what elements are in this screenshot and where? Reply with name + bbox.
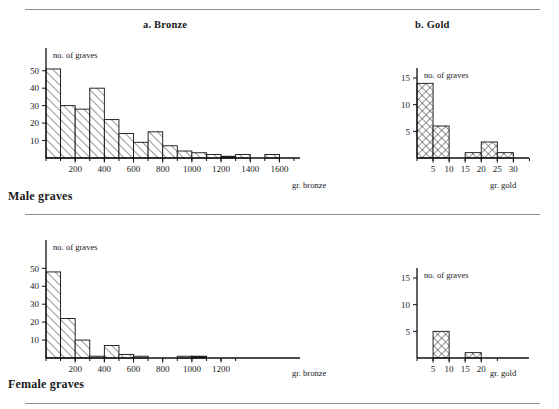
x-tick-label: 5 — [431, 164, 436, 174]
bar — [192, 153, 207, 158]
y-tick-label: 10 — [401, 300, 411, 310]
y-tick-label: 10 — [401, 100, 411, 110]
y-tick-label: 20 — [30, 118, 40, 128]
x-tick-label: 600 — [127, 364, 141, 374]
bar — [46, 272, 61, 358]
x-tick-label: 800 — [156, 364, 170, 374]
y-axis-name: no. of graves — [424, 270, 469, 280]
bar — [61, 106, 76, 158]
y-tick-label: 15 — [401, 73, 411, 83]
x-tick-label: 15 — [461, 164, 471, 174]
x-tick-label: 10 — [445, 164, 455, 174]
y-axis-name: no. of graves — [53, 242, 98, 252]
x-tick-label: 400 — [98, 364, 112, 374]
x-tick-label: 15 — [461, 364, 471, 374]
x-tick-label: 1200 — [212, 164, 231, 174]
x-tick-label: 10 — [445, 364, 455, 374]
bar — [90, 88, 105, 158]
y-tick-label: 30 — [30, 101, 40, 111]
y-tick-label: 15 — [401, 273, 411, 283]
panel-title-bronze: a. Bronze — [143, 19, 187, 30]
x-tick-label: 1000 — [183, 164, 202, 174]
plot-male-bronze: 20040060080010001200140016001020304050no… — [10, 36, 310, 186]
y-tick-label: 40 — [30, 83, 40, 93]
y-axis-name: no. of graves — [424, 70, 469, 80]
plot-female-bronze: 200400600800100012001020304050no. of gra… — [10, 236, 310, 386]
y-tick-label: 10 — [30, 136, 40, 146]
y-tick-label: 50 — [30, 66, 40, 76]
y-tick-label: 5 — [406, 127, 411, 137]
x-tick-label: 20 — [477, 164, 487, 174]
x-tick-label: 600 — [127, 164, 141, 174]
x-tick-label: 400 — [98, 164, 112, 174]
x-tick-label: 800 — [156, 164, 170, 174]
bars — [417, 83, 513, 158]
x-tick-label: 1600 — [270, 164, 289, 174]
x-tick-label: 1000 — [183, 364, 202, 374]
bar — [481, 142, 497, 158]
x-unit-female-gold: gr. gold — [490, 368, 516, 378]
panel-title-gold: b. Gold — [415, 19, 450, 30]
y-tick-label: 10 — [30, 335, 40, 345]
y-tick-label: 40 — [30, 281, 40, 291]
y-tick-label: 50 — [30, 264, 40, 274]
divider-top — [25, 9, 540, 10]
bar — [433, 126, 449, 158]
bar — [61, 319, 76, 358]
x-tick-label: 200 — [68, 364, 82, 374]
x-tick-label: 20 — [477, 364, 487, 374]
x-tick-label: 1400 — [241, 164, 260, 174]
bar — [177, 151, 192, 158]
plot-male-gold: 5101520253051015no. of graves — [395, 52, 540, 186]
x-tick-label: 5 — [431, 364, 436, 374]
bar — [465, 353, 481, 358]
divider-bottom — [25, 403, 540, 404]
x-unit-male-bronze: gr. bronze — [292, 180, 326, 190]
bar — [148, 132, 163, 158]
chart-female-gold: 510152051015no. of graves — [395, 252, 540, 386]
bar — [104, 120, 119, 158]
x-tick-label: 30 — [509, 164, 519, 174]
bar — [104, 345, 119, 358]
bar — [417, 83, 433, 158]
y-tick-label: 30 — [30, 299, 40, 309]
bar — [163, 146, 178, 158]
y-axis-name: no. of graves — [53, 50, 98, 60]
bars — [433, 331, 481, 358]
section-caption-male: Male graves — [8, 189, 73, 204]
bar — [46, 69, 61, 158]
bar — [75, 340, 90, 358]
bar — [433, 331, 449, 358]
x-tick-label: 200 — [68, 164, 82, 174]
chart-male-bronze: 20040060080010001200140016001020304050no… — [10, 36, 310, 186]
bars — [46, 272, 206, 358]
bar — [497, 153, 513, 158]
plot-female-gold: 510152051015no. of graves — [395, 252, 540, 386]
y-tick-label: 20 — [30, 317, 40, 327]
bars — [46, 69, 279, 158]
bar — [134, 142, 149, 158]
x-unit-male-gold: gr. gold — [490, 180, 516, 190]
chart-male-gold: 5101520253051015no. of graves — [395, 52, 540, 186]
x-unit-female-bronze: gr. bronze — [292, 368, 326, 378]
bar — [119, 134, 134, 158]
bar — [75, 109, 90, 158]
y-tick-label: 5 — [406, 327, 411, 337]
divider-middle — [25, 214, 540, 215]
x-tick-label: 1200 — [212, 364, 231, 374]
x-tick-label: 25 — [493, 164, 503, 174]
chart-female-bronze: 200400600800100012001020304050no. of gra… — [10, 236, 310, 386]
bar — [465, 153, 481, 158]
